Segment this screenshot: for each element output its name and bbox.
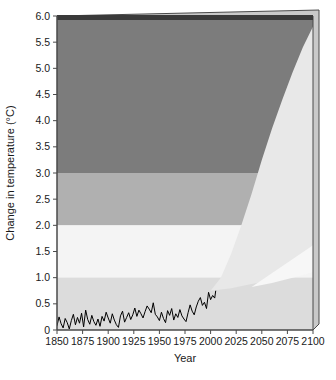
y-axis-tick-label: 3.0 [35,167,50,179]
y-axis-tick-label: 1.0 [35,271,50,283]
x-axis-tick-label: 2000 [199,335,223,347]
y-axis-tick-label: 0.5 [35,297,50,309]
x-axis-tick-label: 1975 [173,335,197,347]
low-risk-band [57,278,313,330]
y-axis-tick-label: 2.0 [35,219,50,231]
y-axis-tick-label: 4.5 [35,88,50,100]
y-axis-tick-label: 6.0 [35,10,50,22]
x-axis-tick-label: 1875 [71,335,95,347]
x-axis-tick-label: 2100 [301,335,325,347]
y-axis-tick-label: 5.0 [35,62,50,74]
y-axis-title: Change in temperature (°C) [4,105,16,240]
y-axis-tick-label: 4.0 [35,114,50,126]
y-axis-tick-label: 3.5 [35,140,50,152]
x-axis-tick-label: 1850 [45,335,69,347]
y-axis-tick-label: 1.5 [35,245,50,257]
chart-3d-top-edge [57,15,313,20]
x-axis-tick-label: 1900 [97,335,121,347]
x-axis-tick-label: 2050 [250,335,274,347]
y-axis-tick-label: 0 [44,324,50,336]
x-axis-tick-label: 2075 [276,335,300,347]
y-axis-tick-label: 5.5 [35,36,50,48]
y-axis-tick-label: 2.5 [35,193,50,205]
x-axis-tick-label: 2025 [225,335,249,347]
x-axis-tick-label: 1925 [122,335,146,347]
chart-canvas: 00.51.01.52.02.53.03.54.04.55.05.56.0185… [0,0,336,380]
x-axis-tick-label: 1950 [148,335,172,347]
climate-projection-chart: 00.51.01.52.02.53.03.54.04.55.05.56.0185… [0,0,336,380]
x-axis-title: Year [174,352,197,364]
